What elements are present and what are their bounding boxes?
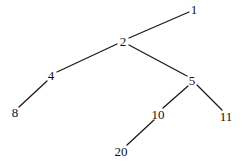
edge-10-20 bbox=[127, 120, 154, 145]
node-5: 5 bbox=[189, 73, 196, 88]
node-4: 4 bbox=[48, 68, 55, 83]
edge-5-11 bbox=[197, 85, 222, 110]
tree-nodes: 12458101120 bbox=[12, 2, 233, 159]
edge-2-4 bbox=[57, 44, 117, 72]
node-11: 11 bbox=[220, 109, 233, 124]
node-2: 2 bbox=[120, 34, 127, 49]
edge-2-5 bbox=[129, 45, 187, 76]
edge-5-10 bbox=[163, 86, 188, 108]
node-8: 8 bbox=[12, 105, 19, 120]
node-20: 20 bbox=[115, 144, 128, 159]
node-1: 1 bbox=[191, 2, 198, 17]
node-10: 10 bbox=[152, 107, 165, 122]
tree-diagram: 12458101120 bbox=[0, 0, 243, 164]
edge-4-8 bbox=[19, 81, 47, 107]
edge-1-2 bbox=[129, 12, 189, 38]
